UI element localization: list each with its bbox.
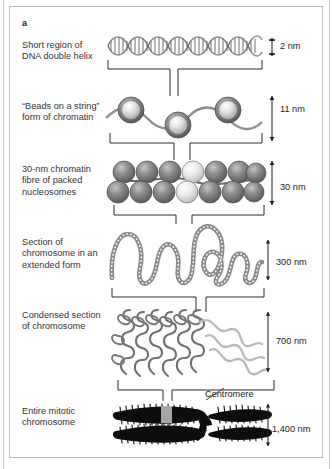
art-double-helix	[108, 36, 262, 56]
fibre-row-upper	[113, 161, 266, 183]
nucleosome-bead	[165, 112, 191, 138]
chromosome-highlight-band	[161, 406, 172, 423]
magnification-connector-2	[110, 133, 262, 160]
size-bar-2nm	[269, 38, 275, 56]
art-condensed-coiled-loops	[112, 310, 266, 376]
size-bar-300nm	[266, 240, 270, 280]
art-mitotic-chromosome	[113, 404, 272, 444]
fibre-bead-highlighted	[176, 181, 198, 203]
art-packed-nucleosome-fibre	[107, 161, 266, 203]
magnification-connector-1	[108, 60, 262, 96]
size-bar-30nm	[270, 161, 275, 205]
figure-artwork	[0, 0, 333, 469]
magnification-connector-5	[118, 380, 274, 401]
size-bar-1400nm	[266, 404, 270, 446]
size-bar-700nm	[266, 312, 270, 372]
art-nucleosome-beads	[106, 97, 262, 138]
fibre-row-lower	[107, 181, 264, 203]
fibre-bead-highlighted	[182, 161, 204, 183]
nucleosome-bead	[215, 97, 241, 123]
nucleosome-bead	[118, 97, 144, 123]
art-looped-beaded-fibre	[112, 226, 262, 284]
chromatin-packing-figure: a Short region of DNA double helix “Bead…	[0, 0, 333, 469]
size-bar-11nm	[270, 96, 275, 141]
magnification-connector-4	[112, 288, 264, 312]
magnification-connector-3	[114, 205, 264, 224]
